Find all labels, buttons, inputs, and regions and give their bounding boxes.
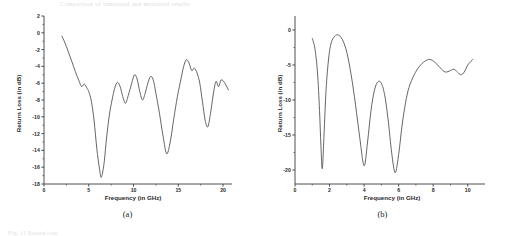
chart-ytick-label: -8: [35, 97, 40, 103]
chart-b-caption: (b): [255, 209, 510, 219]
chart-ytick-label: -15: [283, 132, 291, 138]
chart-ytick-label: -18: [32, 181, 40, 187]
chart-ytick-label: -4: [35, 63, 40, 69]
chart-xtick-label: 10: [131, 187, 137, 193]
chart-b-xlabel: Frequency (in GHz): [317, 194, 467, 201]
chart-data-curve: [62, 36, 229, 177]
chart-xtick-label: 20: [220, 187, 226, 193]
chart-xtick-label: 4: [363, 187, 366, 193]
chart-b-plot: 0-5-10-15-200246810: [255, 0, 510, 205]
figure-page: Comparison of simulated and measured res…: [0, 0, 510, 236]
chart-xtick-label: 10: [465, 187, 471, 193]
chart-xtick-label: 6: [397, 187, 400, 193]
chart-a-caption: (a): [0, 209, 255, 219]
chart-ytick-label: -16: [32, 164, 40, 170]
chart-panel-a: 20-2-4-6-8-10-12-14-16-1805101520 Return…: [0, 0, 255, 236]
chart-ytick-label: 0: [288, 27, 291, 33]
chart-panel-b: 0-5-10-15-200246810 Return Loss (in dB) …: [255, 0, 510, 236]
chart-xtick-label: 2: [328, 187, 331, 193]
chart-a-plot: 20-2-4-6-8-10-12-14-16-1805101520: [0, 0, 255, 205]
chart-xtick-label: 0: [294, 187, 297, 193]
chart-xtick-label: 8: [432, 187, 435, 193]
chart-a-ylabel: Return Loss (in dB): [15, 64, 22, 144]
chart-ytick-label: 0: [37, 30, 40, 36]
chart-ytick-label: -20: [283, 167, 291, 173]
chart-ytick-label: -12: [32, 131, 40, 137]
chart-ytick-label: -5: [286, 62, 291, 68]
chart-xtick-label: 5: [87, 187, 90, 193]
chart-ytick-label: 2: [37, 13, 40, 19]
chart-ytick-label: -10: [283, 97, 291, 103]
chart-a-xlabel: Frequency (in GHz): [58, 194, 208, 201]
chart-xtick-label: 0: [43, 187, 46, 193]
chart-ytick-label: -6: [35, 80, 40, 86]
chart-ytick-label: -10: [32, 114, 40, 120]
chart-b-ylabel: Return Loss (in dB): [276, 64, 283, 144]
chart-ytick-label: -14: [32, 147, 40, 153]
chart-xtick-label: 15: [175, 187, 181, 193]
chart-data-curve: [312, 35, 473, 173]
chart-ytick-label: -2: [35, 47, 40, 53]
